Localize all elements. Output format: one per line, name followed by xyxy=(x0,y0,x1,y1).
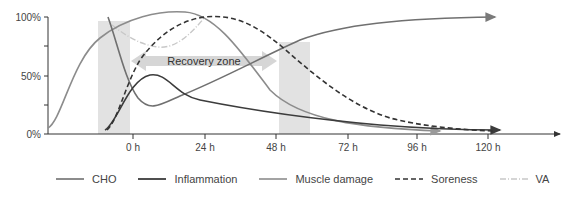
recovery-zone-label: Recovery zone xyxy=(167,55,240,67)
legend-label: Inflammation xyxy=(174,173,237,185)
x-tick-0h: 0 h xyxy=(126,142,140,153)
legend-item-va: VA xyxy=(500,173,550,185)
y-tick-50: 50% xyxy=(21,71,41,82)
legend-line-icon xyxy=(56,175,84,183)
legend-dashdot-line-icon xyxy=(500,175,528,183)
x-tick-48h: 48 h xyxy=(266,142,285,153)
x-tick-120h: 120 h xyxy=(475,142,500,153)
legend-item-soreness: Soreness xyxy=(395,173,477,185)
legend: CHO Inflammation Muscle damage Soreness … xyxy=(0,169,575,189)
y-tick-100: 100% xyxy=(15,12,41,23)
x-tick-24h: 24 h xyxy=(195,142,214,153)
legend-label: VA xyxy=(536,173,550,185)
legend-item-muscle-damage: Muscle damage xyxy=(259,173,373,185)
shaded-band-late xyxy=(279,42,310,134)
legend-item-cho: CHO xyxy=(56,173,116,185)
legend-label: CHO xyxy=(92,173,116,185)
legend-label: Muscle damage xyxy=(295,173,373,185)
legend-line-icon xyxy=(138,175,166,183)
legend-item-inflammation: Inflammation xyxy=(138,173,237,185)
y-tick-0: 0% xyxy=(27,129,42,140)
x-axis: 0 h 24 h 48 h 72 h 96 h 120 h xyxy=(48,134,560,153)
x-tick-72h: 72 h xyxy=(338,142,357,153)
y-axis: 100% 50% 0% xyxy=(15,12,48,140)
legend-dashed-line-icon xyxy=(395,175,423,183)
legend-line-icon xyxy=(259,175,287,183)
legend-label: Soreness xyxy=(431,173,477,185)
x-tick-96h: 96 h xyxy=(407,142,426,153)
